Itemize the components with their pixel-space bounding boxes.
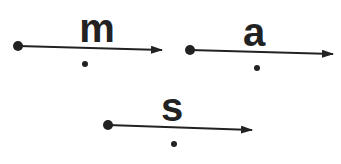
vector-diagram: m a s bbox=[0, 0, 341, 164]
dot-below-m bbox=[82, 61, 88, 67]
vector-m: m bbox=[13, 6, 162, 67]
dot-below-s bbox=[171, 141, 177, 147]
label-m: m bbox=[79, 6, 115, 50]
vector-a: a bbox=[185, 10, 333, 71]
vector-s: s bbox=[103, 85, 252, 147]
dot-below-a bbox=[254, 65, 260, 71]
label-a: a bbox=[243, 10, 266, 54]
label-s: s bbox=[161, 85, 183, 129]
